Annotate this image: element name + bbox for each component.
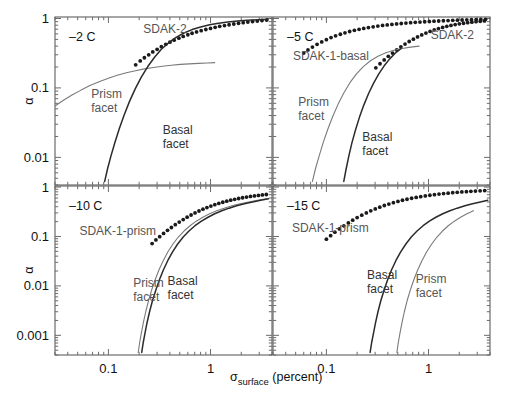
data-point — [441, 19, 445, 23]
y-tick-label: 0.1 — [31, 80, 49, 95]
data-point — [190, 31, 194, 35]
data-point — [197, 209, 201, 213]
data-point — [221, 200, 225, 204]
data-point — [428, 193, 432, 197]
data-point — [424, 31, 428, 35]
data-point — [419, 195, 423, 199]
data-point — [154, 238, 158, 242]
data-point — [181, 218, 185, 222]
data-point — [469, 189, 473, 193]
data-point — [227, 23, 231, 27]
data-point — [432, 19, 436, 23]
data-point — [343, 31, 347, 35]
data-point — [401, 198, 405, 202]
data-point — [223, 24, 227, 28]
data-point — [324, 237, 328, 241]
data-point — [245, 195, 249, 199]
data-point — [410, 196, 414, 200]
data-point — [403, 42, 407, 46]
data-point — [437, 192, 441, 196]
series-label-prism-facet-line2: facet — [133, 290, 160, 304]
data-point — [414, 196, 418, 200]
data-point — [360, 213, 364, 217]
series-label-prism-facet-line2: facet — [91, 101, 118, 115]
series-label-basal-facet: Basal — [367, 268, 397, 282]
data-point — [260, 193, 264, 197]
data-point — [369, 209, 373, 213]
data-point — [376, 24, 380, 28]
data-point — [237, 197, 241, 201]
data-point — [162, 232, 166, 236]
data-point — [411, 37, 415, 41]
data-point — [381, 24, 385, 28]
data-point — [199, 29, 203, 33]
data-point — [158, 235, 162, 239]
data-point — [147, 53, 151, 57]
data-point — [460, 190, 464, 194]
y-tick-label: 1 — [42, 11, 49, 26]
data-point — [201, 207, 205, 211]
series-label-basal-facet: Basal — [362, 130, 392, 144]
data-point — [193, 211, 197, 215]
data-point — [173, 223, 177, 227]
data-point — [364, 211, 368, 215]
data-point — [195, 30, 199, 34]
data-point — [427, 20, 431, 24]
data-point — [150, 242, 154, 246]
data-point — [233, 197, 237, 201]
y-axis-title: α — [22, 97, 36, 104]
data-point — [420, 33, 424, 37]
panel-temperature-label: –2 C — [69, 30, 95, 44]
data-point — [204, 28, 208, 32]
data-point — [446, 19, 450, 23]
panel-temperature-label: –15 C — [287, 199, 320, 213]
data-point — [378, 62, 382, 66]
data-point — [177, 220, 181, 224]
series-label-basal-facet-line2: facet — [163, 137, 190, 151]
x-axis-title-subscript: surface — [238, 376, 269, 387]
data-point — [456, 18, 460, 22]
data-point — [357, 27, 361, 31]
data-point — [362, 26, 366, 30]
series-label-prism-facet: Prism — [133, 276, 164, 290]
data-point — [134, 63, 138, 67]
data-point — [386, 54, 390, 58]
data-point — [382, 58, 386, 62]
series-label-sdak-2: SDAK-2 — [431, 28, 475, 42]
data-point — [478, 19, 482, 23]
data-point — [249, 195, 253, 199]
series-label-basal-facet: Basal — [163, 123, 193, 137]
series-label-basal-facet: Basal — [168, 274, 198, 288]
x-axis-title-unit: (percent) — [269, 370, 323, 384]
data-point — [348, 30, 352, 34]
data-point — [385, 23, 389, 27]
data-point — [329, 36, 333, 40]
data-point — [396, 200, 400, 204]
y-axis-title: α — [22, 266, 36, 273]
data-point — [474, 189, 478, 193]
data-point — [442, 192, 446, 196]
data-point — [387, 202, 391, 206]
data-point — [457, 22, 461, 26]
data-point — [253, 194, 257, 198]
data-point — [416, 35, 420, 39]
data-point — [241, 196, 245, 200]
data-point — [407, 40, 411, 44]
y-tick-label: 1 — [42, 180, 49, 195]
data-point — [232, 22, 236, 26]
data-point — [334, 34, 338, 38]
data-point — [213, 203, 217, 207]
series-label-basal-facet-line2: facet — [168, 288, 195, 302]
data-point — [423, 194, 427, 198]
data-point — [205, 206, 209, 210]
data-point — [433, 193, 437, 197]
series-label-sdak-1-prism: SDAK-1-prism — [79, 224, 156, 238]
series-label-sdak-2: SDAK-2 — [143, 22, 187, 36]
data-point — [390, 22, 394, 26]
data-point — [185, 215, 189, 219]
data-point — [209, 26, 213, 30]
data-point — [170, 226, 174, 230]
data-point — [399, 22, 403, 26]
data-point — [229, 198, 233, 202]
data-point — [437, 19, 441, 23]
